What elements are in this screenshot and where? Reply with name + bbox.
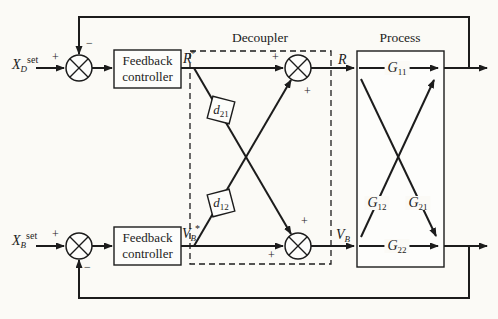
process-title: Process bbox=[379, 31, 420, 45]
decoupler-top-plus-bottom: + bbox=[304, 85, 311, 97]
block-diagram: Decoupler Process XDset + − XBset + − Fe… bbox=[0, 0, 498, 319]
g21-label: G21 bbox=[405, 196, 430, 210]
g12-label: G12 bbox=[364, 196, 389, 210]
xd-setpoint-label: XDset bbox=[12, 58, 38, 72]
vb-setpoint-label: VB* bbox=[182, 227, 200, 241]
xd-sum-junction bbox=[66, 55, 92, 81]
xb-plus-sign: + bbox=[52, 228, 59, 240]
g11-label: G11 bbox=[385, 61, 410, 75]
d21-branch-arrow bbox=[194, 68, 291, 234]
process-box bbox=[357, 51, 444, 267]
decoupler-title: Decoupler bbox=[232, 31, 288, 45]
decoupler-box bbox=[190, 51, 331, 264]
r-signal-label: R bbox=[338, 53, 347, 67]
g22-label: G22 bbox=[384, 239, 409, 253]
vb-signal-label: VB bbox=[336, 228, 350, 242]
decoupler-top-sum-junction bbox=[285, 55, 311, 81]
top-feedback-minus-sign: − bbox=[86, 37, 93, 49]
feedback-controller-top-label: Feedback controller bbox=[114, 53, 181, 85]
d12-label: d12 bbox=[213, 196, 229, 209]
diagram-wiring bbox=[0, 0, 498, 319]
bottom-feedback-minus-sign: − bbox=[84, 261, 91, 273]
decoupler-top-plus-left: + bbox=[272, 51, 279, 63]
decoupler-bottom-plus-left: + bbox=[268, 249, 275, 261]
r-setpoint-label: R* bbox=[183, 52, 196, 66]
decoupler-bottom-sum-junction bbox=[285, 233, 311, 259]
decoupler-bottom-plus-top: + bbox=[301, 215, 308, 227]
xd-plus-sign: + bbox=[52, 51, 59, 63]
d12-branch-arrow bbox=[194, 80, 291, 246]
xb-sum-junction bbox=[66, 233, 92, 259]
feedback-controller-bottom-label: Feedback controller bbox=[114, 230, 181, 262]
d21-label: d21 bbox=[213, 103, 229, 116]
xb-setpoint-label: XBset bbox=[12, 234, 37, 248]
